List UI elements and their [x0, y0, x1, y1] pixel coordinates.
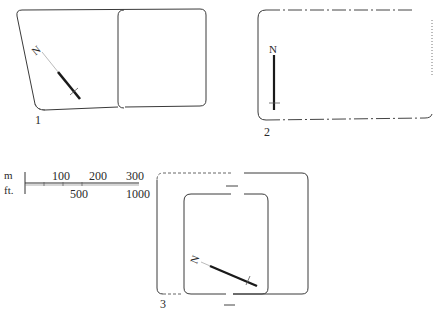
north-label: N	[269, 43, 277, 55]
scale-tick-300: 300	[126, 169, 144, 183]
figure-3-outer-left	[157, 180, 163, 294]
scale-imperial-unit: ft.	[4, 184, 14, 196]
figure-2-plan: N 2	[258, 10, 432, 139]
figure-3-inner-left	[184, 194, 231, 294]
figure-1-outer-outline	[17, 10, 118, 110]
scale-tick-500: 500	[70, 187, 88, 201]
scale-tick-100: 100	[52, 169, 70, 183]
figure-2-left-edge	[258, 10, 266, 120]
figure-3-label: 3	[160, 297, 166, 311]
scale-tick-200: 200	[89, 169, 107, 183]
north-arrow: N	[187, 253, 257, 286]
figure-2-label: 2	[264, 125, 270, 139]
scale-metric-unit: m	[4, 169, 13, 181]
north-label: N	[29, 43, 43, 57]
scale-tick-1000: 1000	[126, 187, 150, 201]
figure-3-dashed-top-left	[157, 173, 231, 180]
figure-2-bottom-edge	[266, 114, 432, 120]
north-arrow: N	[269, 43, 280, 110]
figure-1-inner-room	[118, 10, 124, 108]
figure-1-label: 1	[35, 113, 41, 127]
figure-1-top-edge	[22, 9, 206, 107]
scale-bar: m ft. 100 200 300 500 1000	[4, 169, 150, 201]
figure-1-plan: N 1	[17, 9, 206, 127]
north-label: N	[187, 253, 201, 265]
figure-3-plan: N 3	[157, 173, 308, 311]
plan-diagrams: N 1 N 2 m ft. 100 200 300 500 1000	[0, 0, 443, 328]
figure-3-outer-right	[233, 173, 308, 294]
north-arrow: N	[29, 43, 80, 99]
